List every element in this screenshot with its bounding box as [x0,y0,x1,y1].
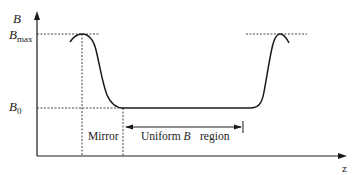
diagram-graphics [0,0,355,175]
y-axis-label: B [13,12,21,25]
b0-subscript: 0 [17,106,22,116]
x-axis-label: z [342,163,347,174]
region-label: region [200,131,229,143]
bmax-symbol: B [9,27,17,42]
mirror-field-diagram: B Bmax B0 Mirror Uniform B region z [0,0,355,175]
bmax-subscript: max [17,34,33,44]
b0-label: B0 [9,100,21,113]
y-axis-arrow-icon [34,11,40,20]
arrow-right-icon [234,125,242,130]
arrow-left-icon [125,125,133,130]
uniform-symbol: B [183,130,190,142]
uniform-region-label: Uniform B [141,131,191,143]
bmax-label: Bmax [9,28,32,41]
mirror-label: Mirror [88,131,119,143]
x-axis [37,153,347,159]
y-axis [34,11,40,156]
x-axis-arrow-icon [338,153,347,159]
uniform-prefix: Uniform [141,130,183,142]
b0-symbol: B [9,99,17,114]
field-curve [70,34,289,108]
